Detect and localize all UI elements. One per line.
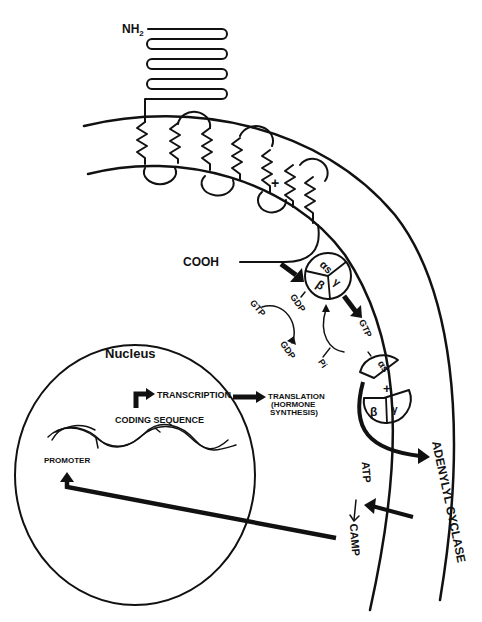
alpha-subunit-active: αs: [360, 355, 398, 378]
promoter-label: PROMOTER: [44, 456, 90, 465]
pi-branch: [323, 348, 330, 357]
gtp-activated-label: GTP: [357, 318, 374, 339]
receptor-extracellular-loop: [145, 29, 227, 122]
nh2-label: NH2: [122, 22, 144, 38]
pi-label: Pi: [316, 357, 329, 370]
dissociation-marker: +: [383, 381, 391, 396]
atp-to-camp-arrow: [354, 500, 356, 520]
membrane-inner-line: [88, 166, 393, 610]
coding-sequence-label: CODING SEQUENCE: [115, 415, 204, 425]
receptor-to-gprotein-arrow: [281, 264, 304, 282]
gprotein-activation-arrow: [344, 296, 362, 318]
transcription-start-arrow: [136, 388, 155, 408]
transcription-to-translation-arrow: [233, 391, 266, 403]
svg-text:γ: γ: [331, 275, 344, 289]
plasma-membrane: [84, 116, 454, 610]
svg-text:γ: γ: [392, 404, 398, 415]
transmembrane-helices: [137, 122, 315, 223]
nucleus-envelope: [15, 345, 255, 605]
svg-text:β: β: [370, 405, 377, 419]
camp-label: CAMP: [348, 523, 363, 556]
nucleus-title: Nucleus: [105, 346, 156, 361]
translation-label: TRANSLATION (HORMONE SYNTHESIS): [268, 392, 327, 417]
g-protein-trimer-inactive: αs β γ: [305, 253, 351, 299]
receptor-marker: +: [271, 175, 279, 191]
gdp-bound-label: GDP: [288, 292, 307, 314]
gdp-bond: [301, 292, 305, 297]
gtp-alpha-bond: [368, 352, 371, 356]
camp-to-promoter-arrow: [60, 472, 336, 538]
svg-text:β: β: [313, 277, 327, 293]
pi-recycle-arrowhead: [322, 304, 330, 312]
pi-recycle-arc: [323, 309, 344, 352]
dna-helix: [48, 425, 236, 450]
signaling-diagram: + NH2 COOH αs β γ GDP GTP GDP Pi GTP: [0, 0, 482, 622]
transcription-label: TRANSCRIPTION: [157, 390, 231, 400]
gtp-in-label: GTP: [248, 298, 268, 319]
atp-label: ATP: [360, 461, 374, 483]
cooh-label: COOH: [183, 255, 219, 269]
receptor-c-terminal-tail: [240, 225, 319, 262]
